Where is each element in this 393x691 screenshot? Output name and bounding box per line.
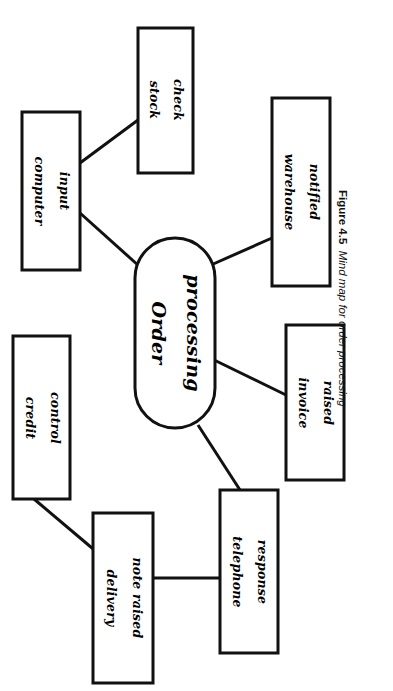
invoice-raised-label-line1: invoice [296,377,311,428]
stock-check-label-line1: stock [147,81,162,120]
credit-control-label-line2: control [48,392,63,444]
delivery-note-raised-label-line2: note raised [130,558,145,639]
computer-input-label-line2: input [57,172,72,210]
node-computer-input[interactable]: computer input [22,112,80,270]
connector-computer-input-to-stock-check [80,120,138,163]
connector-order-processing-to-invoice-raised [210,358,286,395]
telephone-response-label-line2: response [255,540,270,604]
stock-check-label-line2: check [171,79,186,121]
order-processing-label-line2: processing [183,274,205,391]
node-credit-control[interactable]: credit control [13,336,70,499]
node-telephone-response[interactable]: telephone response [220,490,278,653]
node-warehouse-notified[interactable]: warehouse notified [272,98,330,286]
computer-input-label-line1: computer [32,157,47,227]
figure-caption-text: Mind map for order processing [337,251,349,407]
figure-caption: Figure 4.5 Mind map for order processing [333,190,353,490]
node-delivery-note-raised[interactable]: delivery note raised [93,513,153,683]
order-processing-label-line1: Order [148,302,170,367]
figure-number: Figure 4.5 [337,190,349,244]
warehouse-notified-label-line2: notified [307,164,322,220]
figure-page: THE INFORMATION AND KNOWLEDGE-BASED PROC… [0,0,393,691]
connector-order-processing-to-telephone-response [198,425,240,490]
node-stock-check[interactable]: stock check [138,28,193,173]
delivery-note-raised-label-line1: delivery [104,570,119,627]
warehouse-notified-label-line1: warehouse [282,154,297,231]
connector-computer-input-to-order-processing [80,213,139,266]
telephone-response-label-line1: telephone [230,536,245,607]
credit-control-label-line1: credit [23,397,38,440]
node-order-processing[interactable]: Order processing [135,238,215,428]
connector-order-processing-to-warehouse-notified [211,238,272,265]
